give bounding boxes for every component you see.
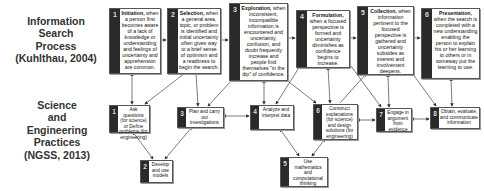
practice-text: Plan and carry out investigations bbox=[186, 108, 223, 127]
stage-number: 2 bbox=[168, 9, 178, 73]
practice-number: 5 bbox=[281, 158, 289, 186]
practice-text: Obtain, evaluate, and communicate inform… bbox=[439, 108, 479, 128]
practice-number: 6 bbox=[314, 105, 322, 139]
stage-description: when information pertinent to the focuse… bbox=[373, 8, 411, 74]
isp-stage-collection: 5 Collection, when information pertinent… bbox=[357, 6, 414, 75]
isp-stage-formulation: 4 Formulation, when a focused perspectiv… bbox=[296, 10, 350, 68]
stage-description: when a general area, topic, or problem i… bbox=[179, 10, 219, 70]
stage-text: Collection, when information pertinent t… bbox=[368, 7, 413, 74]
stage-number: 4 bbox=[297, 11, 307, 67]
practice-number: 3 bbox=[178, 108, 186, 127]
practice-number: 8 bbox=[431, 108, 439, 128]
practice-construct-explanations: 6 Construct explanations (for science) a… bbox=[313, 104, 358, 140]
isp-stage-selection: 2 Selection, when a general area, topic,… bbox=[167, 8, 221, 74]
practice-communicate-information: 8 Obtain, evaluate, and communicate info… bbox=[430, 107, 480, 129]
practice-analyze-data: 4 Analyze and interpret data bbox=[250, 105, 294, 130]
practice-develop-models: 2 Develop and use models bbox=[140, 160, 173, 183]
practice-text: Construct explanations (for science) and… bbox=[322, 105, 357, 139]
practice-number: 1 bbox=[110, 106, 118, 132]
practice-number: 7 bbox=[377, 109, 385, 131]
stage-description: when a focused perspective is formed and… bbox=[310, 18, 346, 66]
stage-text: Exploration, when inconsistent, incompat… bbox=[240, 4, 287, 80]
stage-number: 6 bbox=[422, 9, 432, 78]
practice-plan-investigations: 3 Plan and carry out investigations bbox=[177, 107, 224, 128]
practice-math-computational: 5 Use mathematics and computational thin… bbox=[280, 157, 328, 187]
isp-stage-exploration: 3 Exploration, when inconsistent, incomp… bbox=[229, 3, 288, 81]
stage-text: Formulation, when a focused perspective … bbox=[307, 11, 349, 67]
isp-stage-initiation: 1 Initiation, when a person first become… bbox=[109, 8, 161, 74]
practice-number: 2 bbox=[141, 161, 149, 182]
isp-stage-presentation: 6 Presentation, when the search is compl… bbox=[421, 8, 480, 79]
stage-description: when the search is completed with a new … bbox=[434, 16, 478, 70]
practice-text: Ask questions (for science) or Define pr… bbox=[118, 106, 149, 132]
stage-text: Initiation, when a person first becomes … bbox=[120, 9, 160, 73]
stage-description: when inconsistent, incompatible informat… bbox=[242, 5, 285, 77]
practice-text: Develop and use models bbox=[149, 161, 172, 182]
stage-number: 1 bbox=[110, 9, 120, 73]
practice-engage-argument: 7 Engage in argument from evidence bbox=[376, 108, 412, 132]
stage-number: 5 bbox=[358, 7, 368, 74]
practice-text: Use mathematics and computational thinki… bbox=[289, 158, 327, 186]
practice-text: Analyze and interpret data bbox=[259, 106, 293, 129]
stage-description: when a person first becomes aware of a l… bbox=[122, 10, 159, 70]
practice-text: Engage in argument from evidence bbox=[385, 109, 411, 131]
stage-text: Presentation, when the search is complet… bbox=[432, 9, 479, 78]
stage-text: Selection, when a general area, topic, o… bbox=[178, 9, 220, 73]
practice-ask-questions: 1 Ask questions (for science) or Define … bbox=[109, 105, 150, 133]
practice-number: 4 bbox=[251, 106, 259, 129]
stage-number: 3 bbox=[230, 4, 240, 80]
